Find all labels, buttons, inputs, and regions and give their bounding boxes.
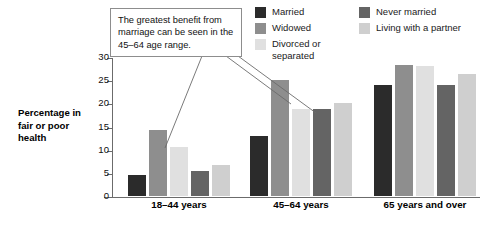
legend-item-living-with-a-partner: Living with a partner [359, 22, 461, 36]
chart-legend: Married Widowed Divorced or separated Ne… [255, 6, 495, 64]
bar-never-married [191, 171, 209, 196]
y-axis-line [112, 58, 113, 198]
legend-item-widowed: Widowed [255, 22, 321, 36]
bar-married [128, 175, 146, 196]
y-axis-title: Percentage in fair or poor health [18, 107, 96, 145]
legend-label-widowed: Widowed [272, 22, 311, 34]
chart-figure: The greatest benefit from marriage can b… [0, 0, 500, 236]
bar-living-with-a-partner [458, 74, 476, 196]
y-tick-label: 5 [104, 167, 109, 178]
y-tick-label: 0 [104, 190, 109, 201]
legend-label-married: Married [272, 6, 304, 18]
bar-married [250, 136, 268, 196]
bar-group-3: 65 years and over [374, 57, 476, 196]
legend-swatch-married [255, 7, 266, 18]
bar-group-1: 18–44 years [128, 57, 230, 196]
x-axis-group-label: 45–64 years [250, 199, 352, 210]
x-axis-group-label: 18–44 years [128, 199, 230, 210]
legend-swatch-divorced-or-separated [255, 39, 266, 50]
legend-swatch-never-married [359, 7, 370, 18]
bar-group-bars [250, 57, 352, 196]
y-tick-label: 15 [98, 121, 109, 132]
bar-divorced-or-separated [170, 147, 188, 196]
legend-label-living-with-a-partner: Living with a partner [376, 22, 461, 34]
legend-swatch-living-with-a-partner [359, 23, 370, 34]
bar-never-married [437, 85, 455, 196]
bar-never-married [313, 109, 331, 196]
bar-group-bars [128, 57, 230, 196]
plot-area: 051015202530 18–44 years45–64 years65 ye… [112, 58, 480, 197]
bar-group-bars [374, 57, 476, 196]
legend-label-never-married: Never married [376, 6, 436, 18]
legend-column-right: Never married Living with a partner [359, 6, 461, 38]
annotation-text: The greatest benefit from marriage can b… [118, 15, 233, 50]
bar-group-2: 45–64 years [250, 57, 352, 196]
y-tick-label: 20 [98, 97, 109, 108]
bar-divorced-or-separated [416, 66, 434, 196]
y-tick-label: 10 [98, 144, 109, 155]
bar-widowed [271, 80, 289, 196]
x-axis-line [104, 197, 480, 198]
bar-widowed [149, 130, 167, 196]
bar-divorced-or-separated [292, 109, 310, 196]
y-tick-label: 25 [98, 74, 109, 85]
bar-living-with-a-partner [212, 165, 230, 197]
annotation-callout: The greatest benefit from marriage can b… [110, 8, 242, 57]
bar-widowed [395, 65, 413, 196]
y-tick-label: 30 [98, 51, 109, 62]
legend-item-never-married: Never married [359, 6, 461, 20]
legend-swatch-widowed [255, 23, 266, 34]
bar-married [374, 85, 392, 196]
bar-living-with-a-partner [334, 103, 352, 196]
legend-item-married: Married [255, 6, 321, 20]
x-axis-group-label: 65 years and over [374, 199, 476, 210]
